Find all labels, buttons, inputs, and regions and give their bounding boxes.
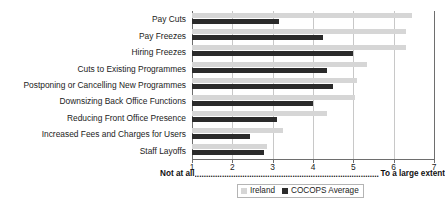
- bar-row: [192, 110, 434, 126]
- category-label: Increased Fees and Charges for Users: [42, 129, 186, 139]
- bar-ireland: [192, 13, 412, 18]
- bar-ireland: [192, 95, 355, 100]
- scale-anchor-caption: Not at all .............................…: [160, 166, 445, 180]
- bar-ireland: [192, 144, 267, 149]
- bar-row: [192, 93, 434, 109]
- category-label: Staff Layoffs: [140, 146, 186, 156]
- bar-cocops-average: [192, 117, 277, 122]
- bar-row: [192, 60, 434, 76]
- category-label: Pay Cuts: [152, 14, 186, 24]
- bar-cocops-average: [192, 101, 313, 106]
- bar-row: [192, 143, 434, 159]
- bar-cocops-average: [192, 19, 279, 24]
- legend-swatch-icon: [282, 188, 288, 194]
- gridline-7: [434, 11, 435, 159]
- bar-ireland: [192, 45, 406, 50]
- plot-area: [192, 11, 434, 159]
- legend-item[interactable]: COCOPS Average: [282, 186, 359, 196]
- bar-row: [192, 44, 434, 60]
- category-label: Reducing Front Office Presence: [67, 113, 186, 123]
- bar-row: [192, 11, 434, 27]
- bar-ireland: [192, 29, 406, 34]
- category-label: Hiring Freezes: [132, 47, 186, 57]
- bar-cocops-average: [192, 68, 327, 73]
- bar-rows: [192, 11, 434, 159]
- category-label: Cuts to Existing Programmes: [78, 64, 186, 74]
- chart-legend: IrelandCOCOPS Average: [237, 184, 364, 198]
- bar-row: [192, 77, 434, 93]
- bar-cocops-average: [192, 150, 264, 155]
- bar-ireland: [192, 111, 327, 116]
- bar-cocops-average: [192, 35, 323, 40]
- legend-swatch-icon: [241, 188, 247, 194]
- anchor-leader-dots: ........................................…: [195, 170, 381, 179]
- legend-item[interactable]: Ireland: [241, 186, 275, 196]
- anchor-right-label: To a large extent: [381, 169, 445, 178]
- bar-cocops-average: [192, 51, 353, 56]
- category-axis-labels: Pay CutsPay FreezesHiring FreezesCuts to…: [0, 11, 189, 159]
- category-label: Postponing or Cancelling New Programmes: [24, 80, 186, 90]
- grouped-bar-chart: Pay CutsPay FreezesHiring FreezesCuts to…: [0, 0, 445, 202]
- legend-label: Ireland: [250, 186, 275, 196]
- bar-row: [192, 27, 434, 43]
- category-label: Downsizing Back Office Functions: [60, 96, 186, 106]
- category-label: Pay Freezes: [139, 31, 186, 41]
- bar-cocops-average: [192, 134, 250, 139]
- bar-ireland: [192, 62, 367, 67]
- bar-ireland: [192, 128, 283, 133]
- anchor-left-label: Not at all: [160, 169, 195, 178]
- bar-row: [192, 126, 434, 142]
- legend-label: COCOPS Average: [291, 186, 359, 196]
- bar-cocops-average: [192, 84, 333, 89]
- bar-ireland: [192, 78, 357, 83]
